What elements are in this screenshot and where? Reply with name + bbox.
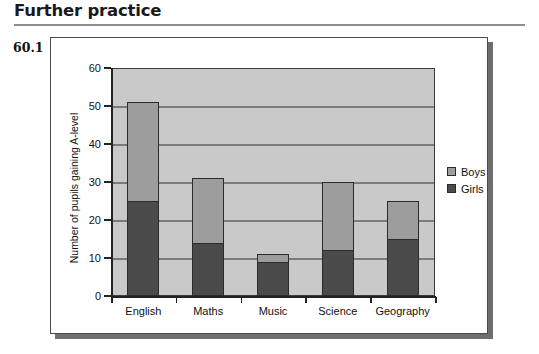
figure-box: 0102030405060 Number of pupils gaining A…	[50, 37, 488, 334]
x-tick-5	[435, 297, 437, 303]
y-tick-30	[104, 181, 111, 183]
x-tick-2	[241, 297, 243, 303]
x-tick-4	[370, 297, 372, 303]
legend-swatch-girls	[447, 184, 456, 193]
x-tick-3	[305, 297, 307, 303]
heading-divider	[14, 24, 525, 26]
x-tick-label-science: Science	[318, 305, 357, 317]
y-tick-label-40: 40	[61, 138, 101, 150]
y-tick-20	[104, 219, 111, 221]
x-tick-0	[111, 297, 113, 303]
y-tick-label-10: 10	[61, 252, 101, 264]
legend-label-girls: Girls	[461, 183, 484, 195]
y-tick-10	[104, 257, 111, 259]
y-tick-label-50: 50	[61, 100, 101, 112]
y-tick-0	[104, 295, 111, 297]
y-axis-title: Number of pupils gaining A-level	[68, 88, 80, 288]
legend-swatch-boys	[447, 167, 456, 176]
legend-item-girls: Girls	[447, 181, 517, 196]
bar-segment-girls-english	[127, 201, 159, 296]
y-tick-50	[104, 105, 111, 107]
x-tick-label-music: Music	[259, 305, 288, 317]
bar-stack-english	[127, 68, 159, 296]
y-tick-label-30: 30	[61, 176, 101, 188]
x-tick-label-geography: Geography	[375, 305, 429, 317]
bar-segment-girls-music	[257, 262, 289, 296]
y-tick-label-60: 60	[61, 62, 101, 74]
y-tick-60	[104, 67, 111, 69]
x-tick-1	[176, 297, 178, 303]
bar-segment-boys-science	[322, 182, 354, 252]
section-heading: Further practice	[0, 0, 539, 30]
bar-segment-girls-science	[322, 250, 354, 296]
bar-stack-music	[257, 68, 289, 296]
bar-segment-girls-maths	[192, 243, 224, 296]
bar-segment-boys-geography	[387, 201, 419, 241]
x-tick-label-maths: Maths	[193, 305, 223, 317]
page-title: Further practice	[14, 1, 161, 20]
bar-chart: 0102030405060 Number of pupils gaining A…	[51, 38, 487, 333]
legend-item-boys: Boys	[447, 164, 517, 179]
question-number: 60.1	[13, 40, 43, 55]
x-axis-line	[111, 296, 436, 298]
x-tick-label-english: English	[125, 305, 161, 317]
bar-segment-boys-maths	[192, 178, 224, 244]
y-tick-label-20: 20	[61, 214, 101, 226]
legend-label-boys: Boys	[461, 166, 485, 178]
y-axis-line	[111, 68, 113, 297]
bar-segment-boys-english	[127, 102, 159, 202]
bar-stack-maths	[192, 68, 224, 296]
bar-stack-science	[322, 68, 354, 296]
bar-stack-geography	[387, 68, 419, 296]
bar-segment-girls-geography	[387, 239, 419, 296]
chart-legend: BoysGirls	[447, 164, 517, 198]
y-tick-40	[104, 143, 111, 145]
y-tick-label-0: 0	[61, 290, 101, 302]
